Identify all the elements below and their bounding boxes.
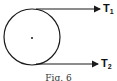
- label-t1: T1: [103, 3, 114, 15]
- pulley-diagram: [0, 0, 117, 81]
- figure-caption: Fig. 6: [0, 73, 117, 81]
- center-dot: [31, 37, 33, 39]
- label-t2: T2: [101, 58, 112, 70]
